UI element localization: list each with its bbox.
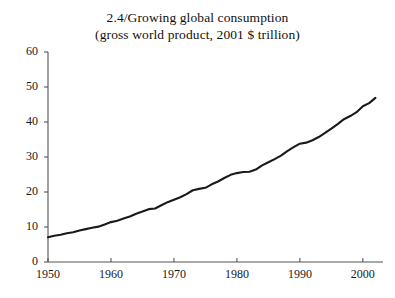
x-axis-tick-label: 1960 (88, 267, 134, 282)
data-series-line (48, 98, 375, 237)
y-axis-tick-label: 60 (10, 44, 38, 59)
x-axis-tick-label: 1990 (277, 267, 323, 282)
y-axis-tick-label: 30 (10, 149, 38, 164)
figure: 2.4/Growing global consumption (gross wo… (0, 0, 395, 298)
plot-area: 0102030405060 195019601970198019902000 (0, 0, 395, 298)
chart-canvas (0, 0, 395, 298)
y-axis-tick-label: 10 (10, 219, 38, 234)
x-axis-tick-label: 1950 (25, 267, 71, 282)
y-axis-ticks (44, 52, 48, 262)
x-axis-ticks (48, 258, 363, 262)
x-axis-tick-label: 1970 (151, 267, 197, 282)
y-axis-tick-label: 50 (10, 79, 38, 94)
y-axis-tick-label: 20 (10, 184, 38, 199)
y-axis-tick-label: 40 (10, 114, 38, 129)
x-axis-tick-label: 2000 (340, 267, 386, 282)
x-axis-tick-label: 1980 (214, 267, 260, 282)
